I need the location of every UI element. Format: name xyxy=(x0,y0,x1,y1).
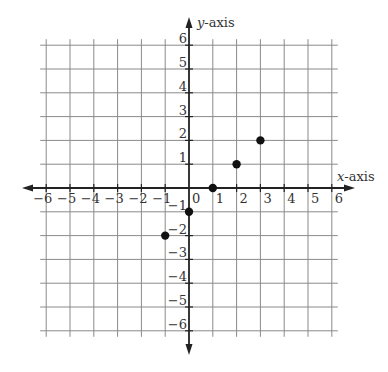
y-tick-label: −1 xyxy=(168,198,187,213)
y-tick-label: 4 xyxy=(179,79,187,94)
x-axis-right-arrow-icon xyxy=(344,185,355,192)
y-tick-label: −4 xyxy=(168,269,187,284)
data-point xyxy=(232,160,240,168)
x-tick-label: −3 xyxy=(105,191,124,206)
y-axis-label: y-axis xyxy=(196,15,235,30)
y-tick-label: 6 xyxy=(179,31,187,46)
x-tick-label: −4 xyxy=(81,191,100,206)
coordinate-plane: −6−5−4−3−2−10123456−6−5−4−3−2−1123456 x-… xyxy=(0,0,388,372)
y-tick-label: −2 xyxy=(168,222,187,237)
x-tick-label: 6 xyxy=(335,191,343,206)
data-point xyxy=(161,231,169,239)
y-tick-label: 2 xyxy=(179,126,187,141)
x-axis-left-arrow-icon xyxy=(22,185,33,192)
data-point xyxy=(185,208,193,216)
x-tick-label: −6 xyxy=(33,191,52,206)
y-tick-label: 1 xyxy=(179,150,187,165)
x-tick-label: −2 xyxy=(128,191,147,206)
y-axis-down-arrow-icon xyxy=(186,344,193,355)
y-tick-label: 3 xyxy=(179,103,187,118)
x-tick-label: 0 xyxy=(192,191,200,206)
x-tick-label: 2 xyxy=(240,191,248,206)
y-tick-label: −6 xyxy=(168,317,187,332)
x-tick-label: 5 xyxy=(311,191,319,206)
x-tick-label: 3 xyxy=(263,191,271,206)
data-point xyxy=(209,184,217,192)
x-tick-label: 4 xyxy=(287,191,295,206)
y-tick-label: −3 xyxy=(168,245,187,260)
data-point xyxy=(256,136,264,144)
y-tick-label: −5 xyxy=(168,293,187,308)
x-tick-label: −5 xyxy=(57,191,76,206)
y-axis-up-arrow-icon xyxy=(186,17,193,28)
x-tick-label: 1 xyxy=(216,191,224,206)
axes xyxy=(22,17,355,355)
x-axis-label: x-axis xyxy=(337,169,375,184)
y-tick-label: 5 xyxy=(179,55,187,70)
